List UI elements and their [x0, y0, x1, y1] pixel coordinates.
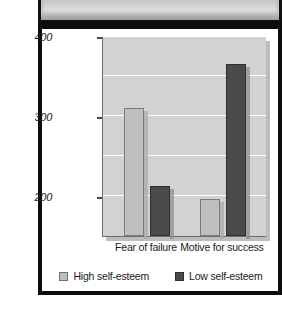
x-axis-labels: Fear of failureMotive for success [102, 241, 266, 259]
chart-card: Amount of practice time (in seconds) 200… [38, 25, 282, 295]
bar-shadow [220, 202, 224, 239]
legend-item[interactable]: Low self-esteem [175, 270, 262, 282]
top-cropped-panel-inner [44, 0, 276, 17]
legend-item[interactable]: High self-esteem [59, 270, 149, 282]
bar [124, 108, 144, 236]
bar-shadow [170, 189, 174, 239]
y-tick-label: 400 [0, 31, 52, 43]
chart-legend: High self-esteemLow self-esteem [52, 265, 270, 287]
legend-label: High self-esteem [73, 270, 149, 282]
gridline [103, 35, 266, 37]
bar [226, 64, 246, 236]
bar-body [150, 186, 170, 236]
legend-label: Low self-esteem [189, 270, 262, 282]
y-tick-mark [97, 197, 102, 199]
bar-shadow [246, 67, 250, 239]
bar [150, 186, 170, 236]
bar-body [124, 108, 144, 236]
plot-area [102, 37, 266, 237]
bar-body [200, 199, 220, 236]
top-cropped-panel [38, 0, 282, 20]
bars-group [103, 37, 266, 236]
figure-page: Amount of practice time (in seconds) 200… [0, 0, 282, 310]
bar-shadow [144, 111, 148, 239]
y-tick-mark [97, 37, 102, 39]
bar-body [226, 64, 246, 236]
bar-chart: Amount of practice time (in seconds) 200… [42, 29, 278, 291]
y-tick-label: 300 [0, 111, 52, 123]
y-tick-mark [97, 117, 102, 119]
x-axis-label: Motive for success [172, 241, 272, 253]
bar [200, 199, 220, 236]
legend-swatch-icon [59, 272, 68, 281]
legend-swatch-icon [175, 272, 184, 281]
y-tick-label: 200 [0, 191, 52, 203]
